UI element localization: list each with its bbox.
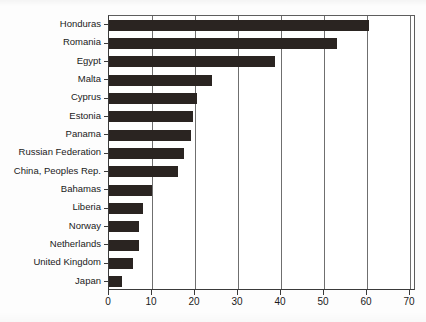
category-label: Malta: [0, 70, 104, 88]
bar-row: [109, 236, 414, 254]
category-label: Cyprus: [0, 88, 104, 106]
chart-screenshot: HondurasRomaniaEgyptMaltaCyprusEstoniaPa…: [0, 0, 426, 322]
x-axis-labels: 010203040506070: [108, 296, 415, 312]
x-tick-40: [280, 290, 281, 295]
bar: [109, 130, 191, 141]
x-tick-label: 10: [145, 296, 156, 307]
category-label: Russian Federation: [0, 143, 104, 161]
x-tick-label: 20: [188, 296, 199, 307]
bar: [109, 20, 369, 31]
category-label: Norway: [0, 217, 104, 235]
bar-row: [109, 34, 414, 52]
x-tick-70: [409, 290, 410, 295]
bar-row: [109, 16, 414, 34]
bar-row: [109, 181, 414, 199]
bar: [109, 166, 178, 177]
bar-row: [109, 89, 414, 107]
x-tick-20: [194, 290, 195, 295]
x-tick-10: [151, 290, 152, 295]
category-label: Bahamas: [0, 180, 104, 198]
x-tick-60: [366, 290, 367, 295]
category-label: Japan: [0, 272, 104, 290]
category-label: Netherlands: [0, 235, 104, 253]
bar-row: [109, 108, 414, 126]
bar: [109, 75, 212, 86]
x-tick-label: 60: [360, 296, 371, 307]
plot-area: [108, 15, 415, 290]
bar: [109, 38, 337, 49]
bar-row: [109, 53, 414, 71]
bar: [109, 276, 122, 287]
category-label: Honduras: [0, 15, 104, 33]
bar: [109, 56, 275, 67]
x-tick-30: [237, 290, 238, 295]
bar-row: [109, 273, 414, 291]
bar-row: [109, 163, 414, 181]
x-tick-label: 40: [274, 296, 285, 307]
category-label: Panama: [0, 125, 104, 143]
category-axis: HondurasRomaniaEgyptMaltaCyprusEstoniaPa…: [0, 15, 104, 290]
bar: [109, 148, 184, 159]
category-label: China, Peoples Rep.: [0, 162, 104, 180]
bar: [109, 111, 193, 122]
category-label: United Kingdom: [0, 253, 104, 271]
bar-series: [109, 16, 414, 289]
bar-row: [109, 144, 414, 162]
bar-row: [109, 71, 414, 89]
bar-row: [109, 254, 414, 272]
category-label: Romania: [0, 33, 104, 51]
category-label: Egypt: [0, 52, 104, 70]
x-tick-0: [108, 290, 109, 295]
x-tick-label: 0: [105, 296, 111, 307]
category-label: Estonia: [0, 107, 104, 125]
bar: [109, 258, 133, 269]
bar-row: [109, 126, 414, 144]
x-tick-label: 50: [317, 296, 328, 307]
bar: [109, 221, 139, 232]
bar: [109, 93, 197, 104]
bar-row: [109, 218, 414, 236]
bar: [109, 240, 139, 251]
category-label: Liberia: [0, 198, 104, 216]
x-tick-label: 30: [231, 296, 242, 307]
bar: [109, 203, 143, 214]
x-tick-label: 70: [403, 296, 414, 307]
x-tick-50: [323, 290, 324, 295]
bar: [109, 185, 152, 196]
bar-row: [109, 199, 414, 217]
